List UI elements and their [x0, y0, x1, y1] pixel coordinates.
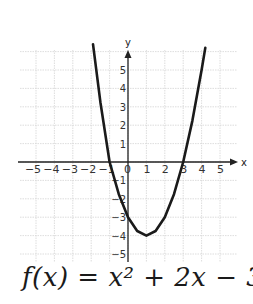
svg-text:−3: −3 [62, 163, 78, 176]
svg-text:5: 5 [217, 163, 224, 176]
parabola-chart: −5−4−3−2−1012345−5−4−3−2−112345 x y [0, 0, 253, 304]
svg-text:−4: −4 [111, 231, 126, 242]
svg-text:−5: −5 [25, 163, 41, 176]
svg-text:2: 2 [120, 120, 126, 131]
svg-text:5: 5 [120, 65, 126, 76]
svg-text:1: 1 [143, 163, 150, 176]
svg-text:−3: −3 [111, 212, 126, 223]
svg-text:−2: −2 [80, 163, 96, 176]
x-axis-label: x [241, 157, 247, 168]
svg-text:−4: −4 [43, 163, 59, 176]
svg-text:0: 0 [124, 163, 131, 176]
svg-text:1: 1 [120, 139, 126, 150]
function-equation: f(x) = x² + 2x − 3 [22, 262, 253, 292]
axes [18, 50, 238, 262]
svg-text:2: 2 [162, 163, 169, 176]
y-axis-label: y [125, 37, 131, 48]
svg-text:3: 3 [120, 102, 126, 113]
svg-text:4: 4 [199, 163, 206, 176]
svg-text:−5: −5 [111, 249, 126, 260]
svg-text:4: 4 [120, 83, 126, 94]
